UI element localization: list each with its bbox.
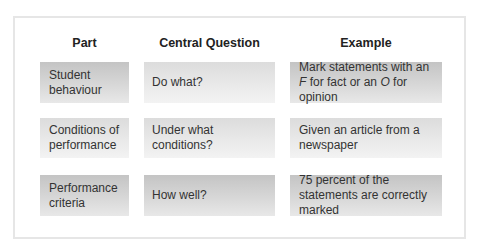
row1-part-text: Student behaviour bbox=[49, 68, 120, 98]
row2-example-text: Given an article from a newspaper bbox=[299, 123, 433, 153]
row2-question-text: Under what conditions? bbox=[152, 123, 266, 153]
row1-part: Student behaviour bbox=[40, 62, 129, 103]
row2-part-text: Conditions of performance bbox=[49, 123, 120, 153]
row2-question: Under what conditions? bbox=[144, 118, 275, 158]
row1-example-text: Mark statements with an F for fact or an… bbox=[299, 60, 433, 105]
row1-example: Mark statements with an F for fact or an… bbox=[290, 62, 442, 103]
row3-example: 75 percent of the statements are correct… bbox=[290, 175, 442, 216]
header-example: Example bbox=[290, 36, 442, 50]
row2-part: Conditions of performance bbox=[40, 118, 129, 158]
row3-question-text: How well? bbox=[152, 188, 207, 203]
row2-example: Given an article from a newspaper bbox=[290, 118, 442, 158]
row3-part-text: Performance criteria bbox=[49, 181, 120, 211]
row3-part: Performance criteria bbox=[40, 175, 129, 216]
row1-question-text: Do what? bbox=[152, 75, 203, 90]
header-part: Part bbox=[40, 36, 129, 50]
row3-example-text: 75 percent of the statements are correct… bbox=[299, 173, 433, 218]
row1-question: Do what? bbox=[144, 62, 275, 103]
row3-question: How well? bbox=[144, 175, 275, 216]
header-central-question: Central Question bbox=[144, 36, 275, 50]
